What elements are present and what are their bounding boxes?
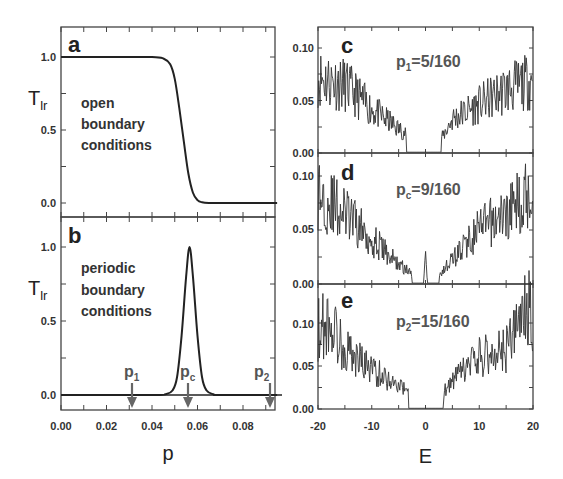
panel-c: c p1=5/160 0.10 0.05 0.00 — [293, 27, 533, 159]
xtick-0.04: 0.04 — [141, 420, 163, 432]
panel-b: b periodic boundary conditions 1.0 0.5 0… — [28, 217, 282, 464]
panel-e-ytick-0.00: 0.00 — [293, 403, 314, 415]
xtick-neg20: -20 — [310, 420, 326, 432]
panel-d: d pc=9/160 0.10 0.05 0.00 — [293, 153, 533, 290]
panel-d-ytick-0.00: 0.00 — [293, 278, 314, 290]
panel-c-ytick-0.10: 0.10 — [293, 42, 314, 54]
panel-a-annotation-line3: conditions — [81, 137, 152, 153]
panel-b-annotation-line1: periodic — [81, 260, 136, 276]
panel-e-annotation: p2=15/160 — [396, 313, 470, 333]
panel-a-ytick-1.0: 1.0 — [41, 51, 56, 63]
panel-b-annotation-line3: conditions — [81, 303, 152, 319]
panel-b-ytick-1.0: 1.0 — [41, 241, 56, 253]
panel-b-annotation-line2: boundary — [81, 282, 145, 298]
panel-c-annotation: p1=5/160 — [396, 53, 461, 73]
arrow-down-icon — [265, 397, 275, 408]
panel-a-ytick-0.5: 0.5 — [41, 124, 56, 136]
panel-a-annotation-line1: open — [81, 95, 114, 111]
panel-e-ytick-0.05: 0.05 — [293, 360, 314, 372]
panel-c-ytick-0.05: 0.05 — [293, 95, 314, 107]
panel-d-annotation: pc=9/160 — [396, 181, 461, 201]
svg-text:p2: p2 — [254, 363, 270, 383]
panel-c-label: c — [341, 33, 353, 58]
xtick-neg10: -10 — [364, 420, 380, 432]
xtick-20: 20 — [527, 420, 539, 432]
figure: a open boundary conditions 1.0 0.5 0.0 T… — [0, 0, 563, 479]
panel-e: e p2=15/160 0.10 0.05 0.00 -20 -10 0 10 … — [293, 271, 540, 468]
panel-a-ytick-0.0: 0.0 — [41, 197, 56, 209]
marker-pc: pc — [180, 363, 196, 408]
panel-b-ytick-0.0: 0.0 — [41, 389, 56, 401]
xtick-0.02: 0.02 — [96, 420, 117, 432]
panel-b-ytick-0.5: 0.5 — [41, 315, 56, 327]
x-axis-title-E: E — [419, 445, 432, 467]
xtick-0.06: 0.06 — [187, 420, 208, 432]
xtick-10: 10 — [473, 420, 485, 432]
panel-a-annotation-line2: boundary — [81, 116, 145, 132]
panel-d-label: d — [341, 160, 354, 185]
panel-e-label: e — [341, 288, 353, 313]
x-axis-title-p: p — [162, 442, 173, 464]
arrow-down-icon — [127, 397, 137, 408]
svg-text:pc: pc — [180, 363, 196, 383]
xtick-0.08: 0.08 — [232, 420, 253, 432]
marker-p2: p2 — [254, 363, 275, 408]
panel-b-ylabel: Tlr — [28, 277, 48, 303]
panel-a: a open boundary conditions 1.0 0.5 0.0 T… — [28, 27, 277, 217]
marker-p1: p1 — [124, 363, 140, 408]
panel-a-ylabel: Tlr — [28, 87, 48, 113]
panel-a-label: a — [68, 32, 81, 57]
xtick-0.00: 0.00 — [50, 420, 71, 432]
arrow-down-icon — [183, 397, 193, 408]
panel-d-ytick-0.05: 0.05 — [293, 223, 314, 235]
svg-text:p1: p1 — [124, 363, 140, 383]
panel-b-label: b — [68, 223, 81, 248]
panel-c-ytick-0.00: 0.00 — [293, 147, 314, 159]
xtick-0: 0 — [422, 420, 428, 432]
panel-d-ytick-0.10: 0.10 — [293, 170, 314, 182]
panel-e-ytick-0.10: 0.10 — [293, 318, 314, 330]
